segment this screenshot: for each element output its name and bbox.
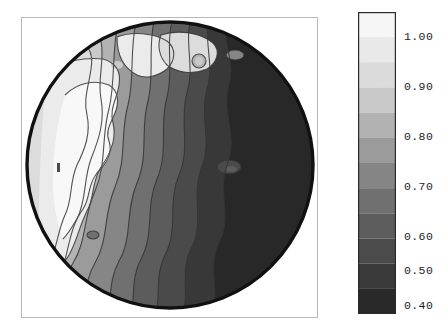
colorbar-tick-label: 1.00 xyxy=(404,31,433,43)
colorbar-tick-label: 0.50 xyxy=(404,265,433,277)
colorbar-tick-label: 0.60 xyxy=(404,231,433,243)
colorbar-tick-label: 0.70 xyxy=(404,181,433,193)
contour-plot-area xyxy=(21,17,318,318)
colorbar-tick-label: 0.80 xyxy=(404,131,433,143)
colorbar-tick-labels: 1.00 0.90 0.80 0.70 0.60 0.50 0.40 xyxy=(404,12,447,314)
contour-figure: 1.00 0.90 0.80 0.70 0.60 0.50 0.40 xyxy=(0,0,447,335)
contour-bands xyxy=(21,17,318,318)
colorbar-tick-label: 0.90 xyxy=(404,81,433,93)
colorbar xyxy=(358,12,396,314)
colorbar-tick-label: 0.40 xyxy=(404,300,433,312)
colorbar-bands xyxy=(358,12,396,314)
